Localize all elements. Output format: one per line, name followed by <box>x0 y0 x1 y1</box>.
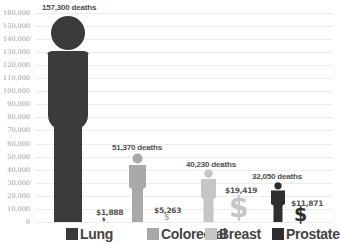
deaths-label: 40,230 deaths <box>186 160 236 169</box>
legend-swatch <box>205 228 217 240</box>
y-tick: 70,000 <box>0 126 30 134</box>
y-tick: 160,000 <box>0 9 30 17</box>
dollar-sign-icon: $ <box>164 214 170 222</box>
dollar-sign-icon: $ <box>294 205 307 224</box>
legend-item-lung: Lung <box>66 226 113 242</box>
legend-label: Lung <box>80 226 113 242</box>
legend-item-prostate: Prostate <box>272 226 340 242</box>
deaths-label: 51,370 deaths <box>112 143 162 152</box>
gridline <box>36 13 332 14</box>
y-tick: 130,000 <box>0 48 30 56</box>
legend-label: Prostate <box>286 226 340 242</box>
dollar-sign-icon: $ <box>229 194 248 222</box>
y-tick: 20,000 <box>0 192 30 200</box>
y-tick: 120,000 <box>0 61 30 69</box>
person-icon <box>128 153 147 223</box>
legend-item-breast: Breast <box>205 226 261 242</box>
y-tick: 0 <box>0 218 30 226</box>
y-tick: 10,000 <box>0 205 30 213</box>
funding-label: $1,888 <box>96 208 123 217</box>
y-tick: 90,000 <box>0 100 30 108</box>
dollar-sign-icon: $ <box>102 217 105 222</box>
y-tick: 40,000 <box>0 166 30 174</box>
y-tick: 140,000 <box>0 35 30 43</box>
legend-swatch <box>272 228 284 240</box>
y-tick: 80,000 <box>0 113 30 121</box>
deaths-label: 32,050 deaths <box>252 172 302 181</box>
deaths-label: 157,300 deaths <box>42 3 96 12</box>
legend-swatch <box>66 228 78 240</box>
y-tick: 110,000 <box>0 74 30 82</box>
y-tick: 100,000 <box>0 87 30 95</box>
y-tick: 50,000 <box>0 153 30 161</box>
legend-swatch <box>147 228 159 240</box>
y-tick: 30,000 <box>0 179 30 187</box>
person-icon <box>200 169 217 223</box>
legend-label: Breast <box>219 226 261 242</box>
person-icon <box>270 182 286 223</box>
y-tick: 150,000 <box>0 22 30 30</box>
person-icon <box>42 15 94 223</box>
y-tick: 60,000 <box>0 140 30 148</box>
